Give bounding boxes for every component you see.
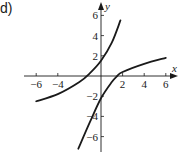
y-tick-label: −2 <box>86 90 98 102</box>
x-axis-label: x <box>171 62 177 74</box>
x-tick-label: −4 <box>52 78 64 90</box>
y-tick-label: 6 <box>93 9 99 21</box>
y-tick-label: 4 <box>93 30 99 42</box>
x-tick-label: 4 <box>141 78 147 90</box>
x-tick-label: 6 <box>163 78 169 90</box>
x-tick-label: 2 <box>120 78 126 90</box>
y-axis-arrow-icon <box>98 2 104 10</box>
y-tick-label: 2 <box>93 50 99 62</box>
x-tick-label: −6 <box>30 78 42 90</box>
chart: xy−6−4246642−2−4−6 <box>0 0 178 153</box>
y-axis-label: y <box>104 0 110 12</box>
y-tick-label: −6 <box>86 131 98 143</box>
